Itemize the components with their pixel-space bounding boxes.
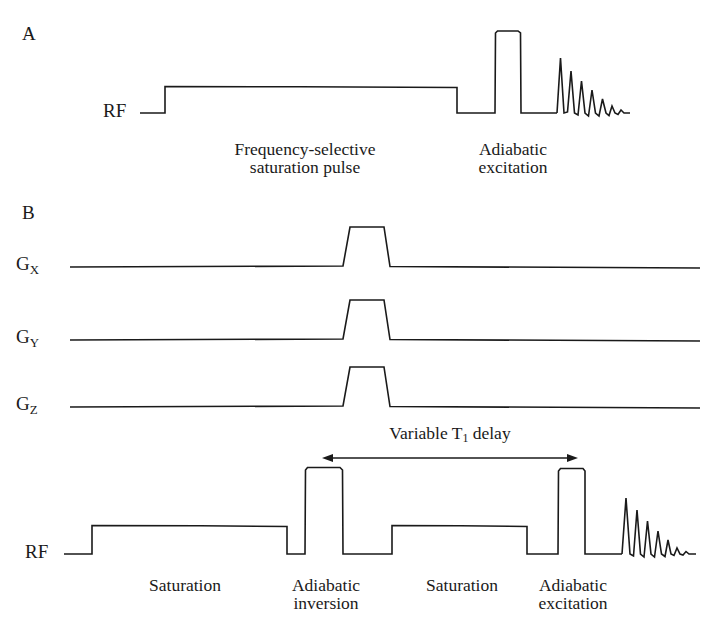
channel-label-rf-b: RF [25, 542, 48, 562]
trace-panel-b-gy [70, 300, 700, 341]
trace-panel-b-gz [70, 367, 700, 408]
caption-saturation-2: Saturation [426, 576, 498, 594]
trace-panel-b-fid [622, 498, 696, 557]
caption-line-1: Adiabatic [292, 575, 360, 595]
variable-t1-delay-label: Variable T1 delay [389, 424, 510, 445]
caption-line-1: Adiabatic [539, 575, 607, 595]
caption-saturation-1: Saturation [149, 576, 221, 594]
trace-panel-a-fid [557, 58, 630, 116]
caption-line-2: saturation pulse [235, 158, 376, 176]
caption-line-1: Frequency-selective [235, 139, 376, 159]
caption-line-2: excitation [538, 594, 607, 612]
trace-panel-a-rf [140, 31, 557, 113]
trace-panel-b-gx [70, 227, 700, 268]
channel-label-gy-sub: Y [30, 335, 39, 350]
caption-adiabatic-inversion: Adiabatic inversion [292, 576, 360, 613]
caption-line-1: Saturation [426, 575, 498, 595]
caption-adiabatic-excitation-a: Adiabatic excitation [478, 140, 547, 177]
caption-frequency-selective-saturation-pulse: Frequency-selective saturation pulse [235, 140, 376, 177]
caption-line-2: excitation [478, 158, 547, 176]
channel-label-gx-sub: X [30, 262, 39, 277]
channel-label-rf-a: RF [103, 101, 126, 121]
caption-adiabatic-excitation-b: Adiabatic excitation [538, 576, 607, 613]
variable-t1-delay-arrow [322, 454, 578, 462]
delay-text-tail: delay [468, 423, 510, 443]
channel-label-gz-base: G [16, 393, 30, 414]
channel-label-gz: GZ [16, 394, 38, 416]
delay-text-main: Variable T [389, 423, 462, 443]
caption-line-1: Saturation [149, 575, 221, 595]
panel-letter-b: B [22, 203, 35, 223]
caption-line-1: Adiabatic [479, 139, 547, 159]
channel-label-gx-base: G [16, 253, 30, 274]
pulse-sequence-traces [0, 0, 708, 635]
channel-label-gx: GX [16, 254, 39, 276]
trace-panel-b-rf [64, 468, 622, 555]
caption-line-2: inversion [292, 594, 360, 612]
channel-label-gy: GY [16, 327, 39, 349]
panel-letter-a: A [22, 24, 36, 44]
channel-label-gy-base: G [16, 326, 30, 347]
channel-label-gz-sub: Z [30, 402, 38, 417]
figure-canvas: A B RF Frequency-selective saturation pu… [0, 0, 708, 635]
